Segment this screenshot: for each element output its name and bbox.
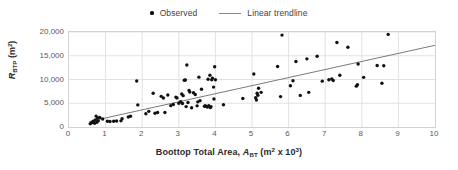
y-axis-tick-label: 0 xyxy=(0,122,68,131)
legend-label-linear-trendline: Linear trendline xyxy=(247,8,307,18)
data-point xyxy=(194,93,197,96)
data-point xyxy=(252,72,255,75)
legend-entry-linear-trendline: Linear trendline xyxy=(219,8,307,18)
data-point xyxy=(335,41,338,44)
y-axis-title-symbol: R xyxy=(7,73,17,80)
data-point xyxy=(181,94,184,97)
plot-svg xyxy=(69,32,435,127)
x-axis-tick-label: 7 xyxy=(322,129,326,138)
data-point xyxy=(212,85,215,88)
data-point xyxy=(151,92,154,95)
data-point xyxy=(346,46,349,49)
data-point xyxy=(208,74,211,77)
y-axis-title-unit-exponent: 2 xyxy=(6,44,13,47)
data-point xyxy=(101,117,104,120)
data-point xyxy=(332,79,335,82)
data-point xyxy=(115,119,118,122)
data-point xyxy=(198,99,201,102)
data-point xyxy=(108,120,111,123)
data-point xyxy=(186,101,189,104)
x-axis-tick-label: 8 xyxy=(359,129,363,138)
data-point xyxy=(382,64,385,67)
data-point xyxy=(222,103,225,106)
line-marker-icon xyxy=(219,13,241,14)
y-axis-title-unit-open: (m xyxy=(7,47,17,61)
data-point xyxy=(259,91,262,94)
y-axis-title-subscript: BTP xyxy=(11,61,18,73)
x-axis-tick-label: 9 xyxy=(395,129,399,138)
data-point xyxy=(156,111,159,114)
data-point xyxy=(280,33,283,36)
dot-marker-icon xyxy=(150,11,153,14)
data-point xyxy=(276,65,279,68)
data-point xyxy=(213,65,216,68)
data-point xyxy=(315,55,318,58)
data-point xyxy=(144,112,147,115)
data-point xyxy=(241,97,244,100)
data-point xyxy=(184,78,187,81)
data-point xyxy=(163,111,166,114)
data-point xyxy=(120,117,123,120)
data-point xyxy=(386,33,389,36)
data-point xyxy=(197,75,200,78)
x-axis-tick-label: 5 xyxy=(249,129,253,138)
data-point xyxy=(136,103,139,106)
data-point xyxy=(380,82,383,85)
data-point xyxy=(279,95,282,98)
data-point xyxy=(147,110,150,113)
y-axis-title: RBTP (m2) xyxy=(7,20,17,100)
data-point xyxy=(291,79,294,82)
x-axis-title-unit-exponent: 2 xyxy=(272,146,276,153)
data-point xyxy=(98,116,101,119)
data-point xyxy=(188,90,191,93)
data-point xyxy=(212,97,215,100)
data-point xyxy=(135,79,138,82)
data-point xyxy=(214,78,217,81)
gridlines xyxy=(69,32,435,127)
legend-label-observed: Observed xyxy=(160,8,198,18)
data-point xyxy=(200,88,203,91)
data-point xyxy=(321,79,324,82)
x-axis-tick-label: 4 xyxy=(212,129,216,138)
data-point xyxy=(112,120,115,123)
data-point xyxy=(256,93,259,96)
data-point xyxy=(172,103,175,106)
data-point xyxy=(338,74,341,77)
x-axis-tick-label: 2 xyxy=(139,129,143,138)
x-axis-title-unit-mid: x 10 xyxy=(275,147,296,157)
data-point xyxy=(162,96,165,99)
chart-figure: Observed Linear trendline 05,00010,00015… xyxy=(0,0,458,170)
data-point xyxy=(211,76,214,79)
data-point xyxy=(175,96,178,99)
data-point xyxy=(356,62,359,65)
data-point xyxy=(255,98,258,101)
data-point xyxy=(356,83,359,86)
x-axis-tick-label: 0 xyxy=(66,129,70,138)
data-point xyxy=(206,78,209,81)
data-point xyxy=(327,78,330,81)
data-point xyxy=(289,84,292,87)
plot-area xyxy=(68,31,436,128)
data-point xyxy=(129,115,132,118)
data-point xyxy=(305,57,308,60)
data-point xyxy=(375,64,378,67)
data-point xyxy=(209,105,212,108)
legend-entry-observed: Observed xyxy=(150,8,197,18)
x-axis-tick-label: 3 xyxy=(176,129,180,138)
x-axis-title-unit-open: (m xyxy=(258,147,272,157)
data-point xyxy=(307,91,310,94)
data-point xyxy=(166,93,169,96)
data-point xyxy=(190,106,193,109)
x-axis-title-unit-exponent2: 3 xyxy=(296,146,300,153)
data-point xyxy=(97,119,100,122)
chart-legend: Observed Linear trendline xyxy=(0,4,458,22)
data-point xyxy=(257,87,260,90)
data-point xyxy=(184,105,187,108)
x-axis-tick-label: 1 xyxy=(102,129,106,138)
x-axis-title-unit-close: ) xyxy=(299,147,302,157)
data-point xyxy=(185,63,188,66)
x-axis-tick-label: 6 xyxy=(285,129,289,138)
data-point xyxy=(362,76,365,79)
x-axis-title-subscript: BT xyxy=(249,151,257,158)
x-axis-title: Boottop Total Area, ABT (m2 x 103) xyxy=(0,147,458,157)
